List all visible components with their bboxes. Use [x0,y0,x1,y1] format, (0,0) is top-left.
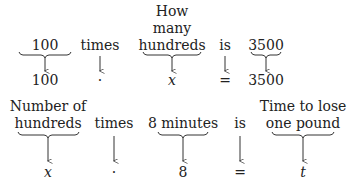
brace-how-many-hundreds [143,52,201,58]
brace-time-to-lose [272,132,334,138]
brace-number-of-hundreds [18,132,79,138]
brace-100 [19,52,71,58]
brace-8-minutes [158,132,208,138]
brace-3500 [251,52,281,58]
braces-and-arrows [0,0,356,183]
